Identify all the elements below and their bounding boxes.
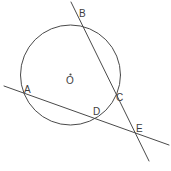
geometry-diagram: A B C D E O [0,0,171,171]
center-label-o: O [66,76,74,86]
vertex-label-e: E [136,124,143,134]
vertex-label-d: D [93,107,100,117]
vertex-label-a: A [24,85,31,95]
vertex-label-b: B [79,9,86,19]
secant-line-b-c-e [71,2,149,161]
vertex-label-c: C [116,93,123,103]
